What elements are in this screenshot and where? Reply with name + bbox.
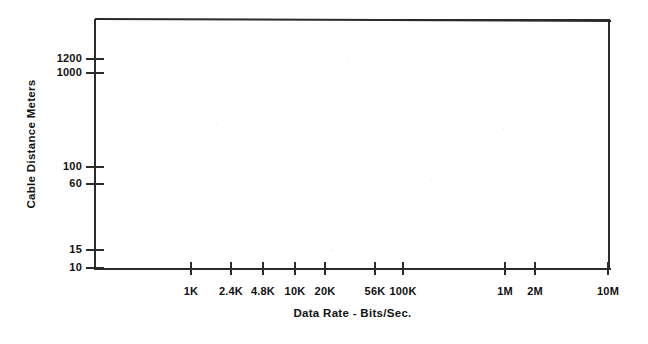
y-axis-tick-label-wrap: 60 — [34, 177, 82, 190]
y-axis-tick-label: 100 — [40, 160, 82, 172]
x-axis-tick-mark — [607, 262, 609, 275]
y-axis-tick-mark — [86, 267, 104, 269]
y-axis-tick-label-wrap: 1200 — [34, 52, 82, 65]
y-axis-tick-mark — [86, 183, 104, 185]
y-axis-tick-label-wrap: 1000 — [34, 66, 82, 79]
x-axis-tick-mark — [230, 262, 232, 275]
y-axis-tick-label-wrap: 15 — [34, 243, 82, 256]
x-axis-tick-mark — [190, 262, 192, 275]
y-axis-tick-label-wrap: 100 — [34, 160, 82, 173]
x-axis-tick-label-wrap: 10M — [578, 281, 638, 299]
x-axis-title: Data Rate - Bits/Sec. — [95, 307, 610, 319]
y-axis-tick-label: 1200 — [40, 52, 82, 64]
x-axis-tick-label: 100K — [389, 285, 416, 297]
x-axis-tick-mark — [534, 262, 536, 275]
x-axis-tick-mark — [324, 262, 326, 275]
y-axis-title: Cable Distance Meters — [25, 44, 37, 244]
y-axis-tick-mark — [86, 166, 104, 168]
x-axis-tick-label: 10M — [597, 285, 619, 297]
x-axis-tick-mark — [294, 262, 296, 275]
chart-figure: 12001000100601510 1K2.4K4.8K10K20K56K100… — [0, 0, 648, 344]
y-axis-tick-mark — [86, 72, 104, 74]
x-axis-tick-mark — [374, 262, 376, 275]
y-axis-tick-label-wrap: 10 — [34, 261, 82, 274]
y-axis-tick-mark — [86, 58, 104, 60]
y-axis-tick-label: 1000 — [40, 66, 82, 78]
x-axis-tick-label-wrap: 100K — [373, 281, 433, 299]
plot-area — [95, 19, 610, 269]
x-axis-tick-label-wrap: 2M — [505, 281, 565, 299]
y-axis-tick-label: 60 — [40, 177, 82, 189]
y-axis-tick-label: 10 — [40, 261, 82, 273]
x-axis-tick-mark — [504, 262, 506, 275]
x-axis-tick-label: 2M — [527, 285, 543, 297]
x-axis-tick-mark — [402, 262, 404, 275]
plot-right-border — [608, 19, 610, 270]
x-axis-tick-label: 20K — [315, 285, 336, 297]
y-axis-line — [94, 19, 96, 270]
y-axis-tick-label: 15 — [40, 243, 82, 255]
y-axis-tick-mark — [86, 249, 104, 251]
x-axis-tick-label: 1K — [184, 285, 198, 297]
x-axis-tick-mark — [262, 262, 264, 275]
